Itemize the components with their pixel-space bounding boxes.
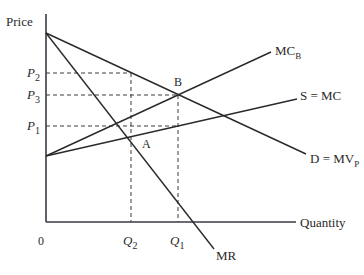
supply-curve xyxy=(46,99,297,156)
p1-label: P1 xyxy=(26,118,40,136)
p2-label: P2 xyxy=(26,65,40,83)
origin-label: 0 xyxy=(38,234,44,248)
demand-label: D = MVP xyxy=(310,151,359,169)
mc-b-curve xyxy=(46,52,271,156)
diagram-canvas: Price Quantity 0 P2 P3 P1 Q2 Q1 MCB S = … xyxy=(0,0,364,275)
mc-b-label: MCB xyxy=(275,43,301,61)
q1-label: Q1 xyxy=(170,233,184,251)
p3-label: P3 xyxy=(26,87,40,105)
x-axis-label: Quantity xyxy=(300,215,346,230)
supply-label: S = MC xyxy=(300,88,341,103)
mr-label: MR xyxy=(216,248,237,263)
q2-label: Q2 xyxy=(123,233,137,251)
demand-curve xyxy=(46,33,306,154)
point-a-label: A xyxy=(142,137,151,151)
mr-curve xyxy=(46,33,214,249)
y-axis-label: Price xyxy=(6,14,33,29)
point-b-label: B xyxy=(174,75,182,89)
